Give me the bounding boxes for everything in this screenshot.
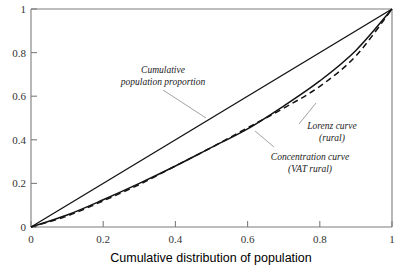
x-tick-label-0: 0 <box>28 233 34 245</box>
leader-line-concentration-curve <box>255 131 274 147</box>
x-tick-label-0.8: 0.8 <box>313 233 327 245</box>
lorenz-curve-figure: 1 0.8 0.6 0.4 0.2 0 0 0.2 0.4 0.6 0.8 1 … <box>0 0 403 270</box>
annotation-concentration-curve-line1: Concentration curve <box>271 152 349 162</box>
y-tick-label-0.4: 0.4 <box>12 134 26 146</box>
annotation-concentration-curve-line2: (VAT rural) <box>288 164 332 175</box>
annotation-cumulative-population-proportion-line1: Cumulative <box>141 65 185 75</box>
y-axis-ticks <box>31 9 37 227</box>
y-tick-label-0.2: 0.2 <box>12 177 26 189</box>
y-tick-label-0: 0 <box>21 221 27 233</box>
chart-canvas: 1 0.8 0.6 0.4 0.2 0 0 0.2 0.4 0.6 0.8 1 … <box>0 0 403 270</box>
annotation-leader-lines <box>163 90 316 147</box>
x-axis-title: Cumulative distribution of population <box>110 251 312 265</box>
x-axis-tick-labels: 0 0.2 0.4 0.6 0.8 1 <box>28 233 395 245</box>
annotation-cumulative-population-proportion-line2: population proportion <box>120 77 206 87</box>
annotation-lorenz-curve: Lorenz curve (rural) <box>306 121 357 144</box>
annotation-cumulative-population-proportion: Cumulative population proportion <box>120 65 206 87</box>
series-cumulative-population-proportion <box>31 9 392 227</box>
x-tick-label-0.6: 0.6 <box>241 233 255 245</box>
annotation-lorenz-curve-line1: Lorenz curve <box>306 121 357 131</box>
x-tick-label-0.4: 0.4 <box>169 233 183 245</box>
y-tick-label-1: 1 <box>21 3 27 15</box>
leader-line-cumulative-population-proportion <box>163 90 206 118</box>
x-tick-label-1: 1 <box>389 233 395 245</box>
y-axis-tick-labels: 1 0.8 0.6 0.4 0.2 0 <box>12 3 26 233</box>
x-axis-ticks <box>31 221 392 227</box>
y-tick-label-0.6: 0.6 <box>12 90 26 102</box>
x-tick-label-0.2: 0.2 <box>96 233 110 245</box>
annotation-concentration-curve: Concentration curve (VAT rural) <box>271 152 349 175</box>
annotation-lorenz-curve-line2: (rural) <box>319 133 345 144</box>
y-tick-label-0.8: 0.8 <box>12 47 26 59</box>
